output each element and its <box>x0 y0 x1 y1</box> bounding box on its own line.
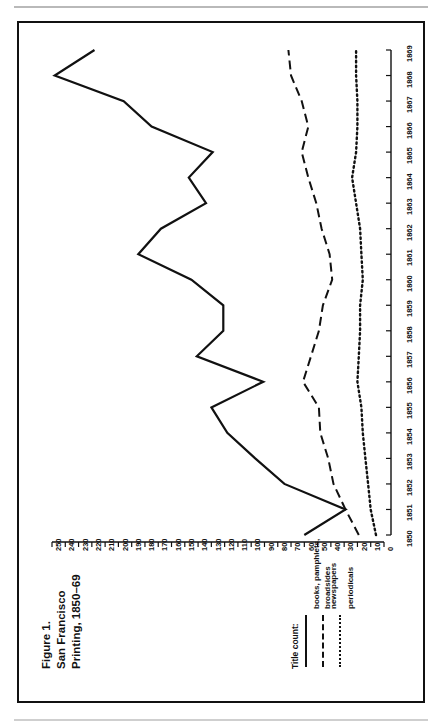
value-tick-label: 0 <box>387 547 395 551</box>
year-tick-label: 1854 <box>406 428 414 445</box>
chart-plot-area <box>19 23 423 701</box>
year-tick-label: 1864 <box>406 173 414 190</box>
value-tick-label: 200 <box>122 538 130 551</box>
value-tick-label: 160 <box>175 538 183 551</box>
year-tick-label: 1852 <box>406 479 414 496</box>
year-tick-label: 1855 <box>406 403 414 420</box>
year-tick-label: 1865 <box>406 147 414 164</box>
series-line-dotted <box>352 50 376 535</box>
value-tick-label: 110 <box>241 539 249 551</box>
page-top-rule <box>14 6 428 8</box>
year-tick-label: 1856 <box>406 377 414 394</box>
value-tick-label: 80 <box>281 543 289 551</box>
value-tick-label: 250 <box>55 538 63 551</box>
year-tick-label: 1868 <box>406 71 414 88</box>
value-tick-label: 230 <box>82 538 90 551</box>
value-tick-label: 220 <box>95 538 103 551</box>
value-tick-label: 140 <box>201 538 209 551</box>
value-tick-label: 100 <box>254 538 262 551</box>
year-tick-label: 1857 <box>406 352 414 369</box>
year-tick-label: 1863 <box>406 198 414 215</box>
value-tick-label: 210 <box>108 538 116 551</box>
value-tick-label: 40 <box>334 543 342 551</box>
value-tick-label: 10 <box>374 543 382 551</box>
year-tick-label: 1860 <box>406 275 414 292</box>
year-tick-label: 1853 <box>406 454 414 471</box>
value-tick-label: 170 <box>161 538 169 551</box>
value-tick-label: 20 <box>361 543 369 551</box>
value-tick-label: 120 <box>228 538 236 551</box>
figure-frame: Figure 1.San FranciscoPrinting, 1850–69 … <box>17 21 425 703</box>
value-tick-label: 50 <box>321 543 329 551</box>
value-tick-label: 190 <box>135 538 143 551</box>
value-tick-label: 70 <box>294 543 302 551</box>
value-tick-label: 240 <box>68 538 76 551</box>
year-tick-label: 1859 <box>406 301 414 318</box>
value-tick-label: 60 <box>308 543 316 551</box>
series-line-dashed <box>288 50 358 535</box>
value-tick-label: 90 <box>268 543 276 551</box>
value-tick-label: 30 <box>347 543 355 551</box>
year-tick-label: 1867 <box>406 96 414 113</box>
value-tick-label: 150 <box>188 538 196 551</box>
year-tick-label: 1858 <box>406 326 414 343</box>
series-line-solid <box>55 50 346 535</box>
year-tick-label: 1866 <box>406 122 414 139</box>
value-tick-label: 130 <box>215 538 223 551</box>
page-bottom-rule <box>14 719 428 721</box>
year-tick-label: 1851 <box>406 505 414 522</box>
year-tick-label: 1862 <box>406 224 414 241</box>
year-tick-label: 1869 <box>406 45 414 62</box>
year-tick-label: 1850 <box>406 530 414 547</box>
value-tick-label: 180 <box>148 538 156 551</box>
year-tick-label: 1861 <box>406 250 414 267</box>
